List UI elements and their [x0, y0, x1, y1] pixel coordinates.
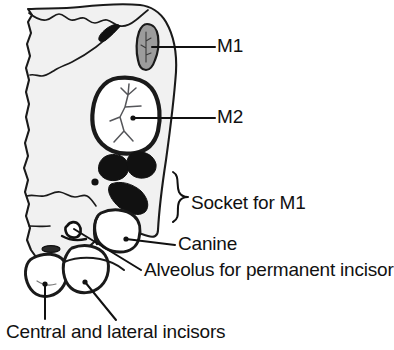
lateral-incisor-outline — [63, 246, 108, 293]
socket-nutrient-foramen — [91, 178, 98, 185]
central-incisor-outline — [25, 254, 67, 296]
label-canine: Canine — [178, 234, 237, 253]
label-m2: M2 — [217, 107, 243, 126]
leader-dot-m2 — [130, 115, 135, 120]
m2-crown-outline — [92, 78, 159, 154]
alveolus-rim — [65, 222, 80, 238]
label-alveolus-for-permanent-incisor: Alveolus for permanent incisor — [144, 260, 394, 279]
leader-dot-lateral — [82, 279, 87, 284]
leader-dot-central — [42, 281, 47, 286]
mental-foramen — [42, 246, 60, 253]
label-socket-for-m1: Socket for M1 — [191, 193, 306, 212]
m2-tooth-crown — [92, 78, 159, 154]
lateral-incisor-crown — [63, 246, 108, 293]
label-m1: M1 — [217, 36, 243, 55]
label-central-and-lateral-incisors: Central and lateral incisors — [6, 322, 225, 341]
central-incisor-crown — [25, 254, 67, 296]
brace-socket-for-m1 — [173, 172, 188, 222]
leader-dot-canine — [123, 236, 128, 241]
socket-blob-upper-left — [98, 154, 128, 180]
